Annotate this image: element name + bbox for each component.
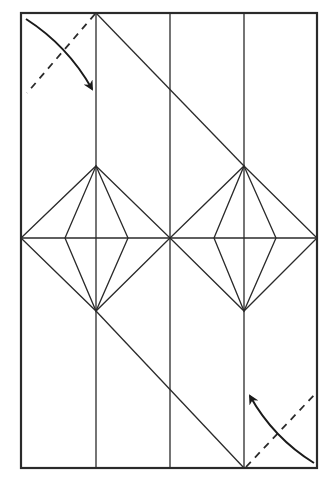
vertical-creases bbox=[96, 13, 244, 468]
origami-diagram bbox=[0, 0, 334, 497]
corner-folds bbox=[26, 14, 316, 467]
fold-arrow-icon bbox=[26, 19, 92, 89]
top-left-corner-fold bbox=[26, 14, 95, 93]
valley-fold-line bbox=[246, 393, 316, 467]
bottom-right-corner-fold bbox=[246, 393, 316, 467]
crease-pattern-canvas bbox=[0, 0, 334, 497]
